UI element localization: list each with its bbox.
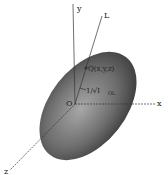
y-axis-label: y [76,4,82,13]
z-axis-label: z [4,167,8,175]
l-axis-label: L [104,11,110,20]
distance-subscript: OL [108,90,116,96]
inertia-ellipsoid-diagram: y L x z O Q(x,y,z) 1/√I OL [0,0,168,175]
x-axis-label: x [157,99,162,108]
origin-label: O [66,99,73,108]
point-q-label: Q(x,y,z) [88,65,115,73]
distance-label: 1/√I [86,87,100,95]
ellipsoid [20,34,156,175]
